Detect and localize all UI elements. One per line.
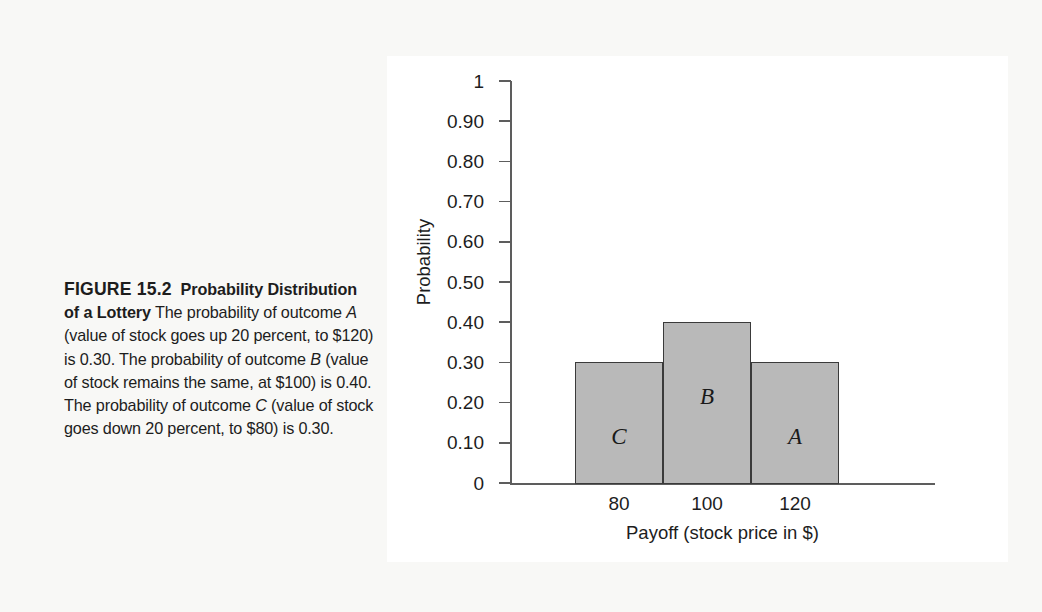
caption-outcome-c: C bbox=[255, 396, 267, 414]
y-axis-tick bbox=[499, 402, 511, 404]
chart-panel: 00.100.200.300.400.500.600.700.800.901 P… bbox=[387, 56, 1008, 562]
bar-b: B bbox=[663, 322, 751, 484]
y-axis-tick-label: 0.20 bbox=[394, 393, 484, 412]
y-axis-tick-label: 0.30 bbox=[394, 353, 484, 372]
bar-label-a: A bbox=[752, 424, 838, 450]
y-axis-tick bbox=[499, 80, 511, 82]
bar-c: C bbox=[575, 362, 663, 484]
caption-outcome-b: B bbox=[310, 350, 321, 368]
y-axis-tick-label: 0.80 bbox=[394, 152, 484, 171]
y-axis-tick bbox=[499, 241, 511, 243]
x-axis-tick-label: 120 bbox=[735, 493, 855, 515]
y-axis-title: Probability bbox=[413, 182, 435, 342]
y-axis-tick bbox=[499, 281, 511, 283]
caption-sentence-1: The probability of outcome bbox=[155, 303, 346, 321]
y-axis-tick bbox=[499, 321, 511, 323]
y-axis-tick bbox=[499, 482, 511, 484]
y-axis-tick bbox=[499, 201, 511, 203]
y-axis-tick bbox=[499, 161, 511, 163]
y-axis-line bbox=[510, 81, 512, 485]
y-axis-tick bbox=[499, 362, 511, 364]
plot-area: 00.100.200.300.400.500.600.700.800.901 P… bbox=[387, 56, 1008, 562]
bar-label-c: C bbox=[576, 424, 662, 450]
y-axis-tick-label: 0.60 bbox=[394, 232, 484, 251]
caption-outcome-a: A bbox=[346, 303, 357, 321]
bar-label-b: B bbox=[664, 384, 750, 410]
y-axis-tick-label: 1 bbox=[394, 72, 484, 91]
figure-caption-text: FIGURE 15.2 Probability Distribution of … bbox=[64, 278, 376, 440]
y-axis-tick-label: 0.90 bbox=[394, 112, 484, 131]
figure-number: FIGURE 15.2 bbox=[64, 279, 172, 299]
figure-number-spacer bbox=[172, 280, 181, 298]
y-axis-tick-label: 0.50 bbox=[394, 273, 484, 292]
bar-a: A bbox=[751, 362, 839, 484]
x-axis-title: Payoff (stock price in $) bbox=[510, 522, 935, 544]
y-axis-tick bbox=[499, 120, 511, 122]
y-axis-tick-label: 0 bbox=[394, 474, 484, 493]
y-axis-tick bbox=[499, 442, 511, 444]
y-axis-tick-label: 0.40 bbox=[394, 313, 484, 332]
y-axis-tick-label: 0.70 bbox=[394, 192, 484, 211]
y-axis-tick-label: 0.10 bbox=[394, 433, 484, 452]
figure-caption: FIGURE 15.2 Probability Distribution of … bbox=[64, 278, 376, 440]
